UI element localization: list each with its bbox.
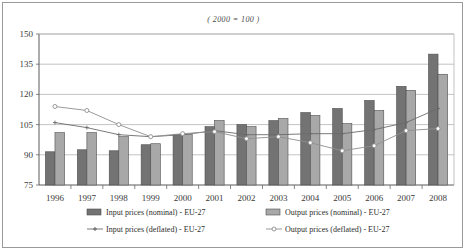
legend-marker-circle — [272, 227, 276, 231]
legend-label: Input prices (deflated) - EU-27 — [106, 225, 205, 234]
x-axis-tick-label: 1998 — [110, 193, 129, 203]
data-point-marker — [149, 135, 153, 139]
bar — [45, 152, 55, 185]
x-axis-tick-label: 2002 — [238, 193, 256, 203]
y-axis-tick-label: 75 — [24, 180, 34, 190]
bar — [119, 137, 129, 185]
x-axis-tick-label: 2008 — [429, 193, 448, 203]
bar — [397, 86, 407, 185]
legend-item[interactable]: Input prices (nominal) - EU-27 — [87, 208, 206, 217]
bar — [55, 133, 65, 185]
y-axis-tick-label: 150 — [20, 29, 34, 39]
legend-marker-cross — [93, 227, 97, 231]
data-point-marker — [117, 133, 121, 137]
x-axis-tick-label: 1999 — [142, 193, 161, 203]
chart-plot-area: 7590105120135150199619971998199920002001… — [3, 3, 464, 249]
data-point-marker — [117, 123, 121, 127]
bar — [310, 116, 320, 185]
bar — [301, 113, 311, 185]
bar — [269, 121, 279, 185]
bar — [87, 133, 97, 185]
data-point-marker — [436, 127, 440, 131]
legend-swatch — [266, 209, 280, 215]
data-point-marker — [372, 144, 376, 148]
data-point-marker — [276, 135, 280, 139]
data-point-marker — [245, 137, 249, 141]
data-point-marker — [213, 130, 217, 134]
data-point-marker — [340, 149, 344, 153]
bar — [205, 127, 215, 185]
y-axis-tick-label: 105 — [20, 120, 34, 130]
x-axis-tick-label: 2000 — [174, 193, 193, 203]
data-point-marker — [53, 104, 57, 108]
data-point-marker — [181, 132, 185, 136]
bar — [365, 100, 375, 185]
x-axis-tick-label: 2005 — [333, 193, 352, 203]
data-point-marker — [308, 141, 312, 145]
bar — [428, 54, 438, 185]
legend-label: Input prices (nominal) - EU-27 — [106, 208, 206, 217]
bar — [333, 108, 343, 185]
bar — [247, 127, 257, 185]
legend-item[interactable]: Output prices (deflated) - EU-27 — [266, 225, 389, 234]
data-point-marker — [404, 129, 408, 133]
bar — [406, 90, 416, 185]
y-axis-tick-label: 90 — [24, 150, 34, 160]
bar — [109, 151, 119, 185]
x-axis-tick-label: 2006 — [365, 193, 384, 203]
bar — [183, 135, 193, 185]
legend-item[interactable]: Input prices (deflated) - EU-27 — [87, 225, 205, 234]
x-axis-tick-label: 2003 — [269, 193, 288, 203]
chart-frame: ( 2000 = 100 ) 7590105120135150199619971… — [2, 2, 463, 248]
x-axis-tick-label: 1996 — [46, 193, 65, 203]
legend-item[interactable]: Output prices (nominal) - EU-27 — [266, 208, 390, 217]
x-axis-tick-label: 2004 — [301, 193, 320, 203]
legend-swatch — [87, 209, 101, 215]
legend-label: Output prices (deflated) - EU-27 — [285, 225, 389, 234]
x-axis-tick-label: 2007 — [397, 193, 416, 203]
legend-label: Output prices (nominal) - EU-27 — [285, 208, 390, 217]
data-point-marker — [53, 121, 57, 125]
bar — [77, 150, 87, 185]
y-axis-tick-label: 135 — [20, 59, 34, 69]
y-axis-tick-label: 120 — [20, 89, 34, 99]
x-axis-tick-label: 1997 — [78, 193, 97, 203]
bar — [141, 145, 151, 185]
data-point-marker — [85, 126, 89, 130]
bar — [374, 111, 384, 185]
x-axis-tick-label: 2001 — [206, 193, 224, 203]
bar — [151, 144, 161, 185]
bar — [173, 135, 183, 185]
data-point-marker — [85, 109, 89, 113]
bar — [278, 119, 288, 185]
chart-svg: 7590105120135150199619971998199920002001… — [3, 3, 464, 249]
